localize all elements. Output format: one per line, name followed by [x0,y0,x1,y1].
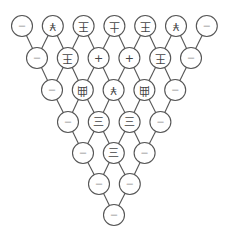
node-glyph: 三 [124,116,135,129]
node-glyph: — [157,118,164,126]
tree-node: 王 [57,48,78,69]
tree-node: — [150,112,171,133]
node-glyph: 王 [155,52,166,65]
node-glyph: — [19,22,26,30]
tree-node: 土 [104,16,125,37]
node-glyph: — [34,54,41,62]
tree-node: — [58,112,79,133]
edges-layer [22,26,207,215]
node-glyph: + [94,52,103,65]
tree-node: ¥ [103,80,124,101]
tree-node: — [196,16,217,37]
tree-node: 王 [73,16,94,37]
node-glyph: — [80,149,87,157]
node-glyph: ¥ [49,20,56,33]
node-glyph: 三 [93,116,104,129]
tree-node: ¥ [166,16,187,37]
node-glyph: + [125,52,134,65]
tree-node: — [73,143,94,164]
node-glyph: ¥ [173,20,180,33]
node-glyph: — [126,180,133,188]
node-glyph: — [141,149,148,157]
node-glyph: ¥ [110,84,117,97]
tree-node: + [88,48,109,69]
tree-node: — [119,174,140,195]
tree-node: 王 [150,48,171,69]
node-glyph: 王 [140,20,151,33]
node-glyph: — [203,22,210,30]
node-glyph: — [172,86,179,94]
tree-node: — [104,205,125,226]
inverted-triangle-tree-diagram: —¥王土王¥——王++王——曲¥曲——三三——三———— [0,0,233,240]
node-glyph: 王 [62,52,73,65]
tree-node: — [89,174,110,195]
tree-node: + [119,48,140,69]
tree-node: ¥ [42,16,63,37]
node-glyph: 曲 [77,84,88,97]
node-glyph: — [65,118,72,126]
node-glyph: 三 [108,147,119,160]
tree-node: — [27,48,48,69]
node-glyph: — [49,86,56,94]
tree-node: — [12,16,33,37]
tree-node: 三 [88,112,109,133]
node-glyph: 土 [109,20,120,33]
tree-node: 曲 [134,80,155,101]
node-glyph: 曲 [139,84,150,97]
tree-node: — [134,143,155,164]
node-glyph: — [96,180,103,188]
tree-node: 王 [135,16,156,37]
node-glyph: — [111,211,118,219]
tree-node: — [181,48,202,69]
node-glyph: 王 [78,20,89,33]
tree-node: 三 [119,112,140,133]
tree-node: 三 [103,143,124,164]
tree-node: — [165,80,186,101]
node-glyph: — [188,54,195,62]
tree-node: — [42,80,63,101]
tree-node: 曲 [72,80,93,101]
